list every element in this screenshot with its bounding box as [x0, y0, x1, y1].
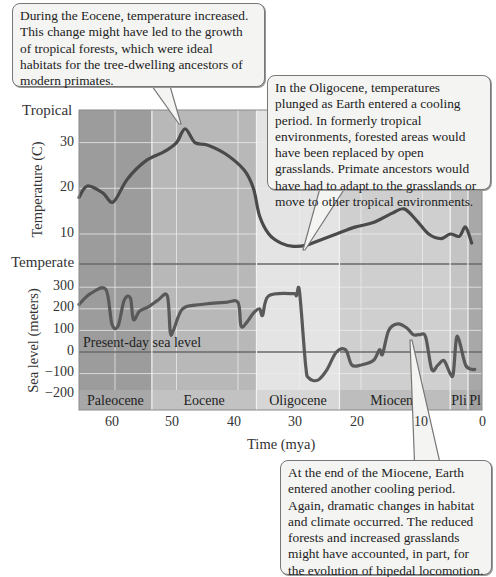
- temp-tick-30: 30: [60, 134, 74, 150]
- time-tick-50: 50: [165, 414, 179, 430]
- epoch-label-eocene: Eocene: [184, 393, 225, 408]
- sea-tick-minus-100: −100: [45, 364, 74, 380]
- epoch-label-pl: Pl: [469, 393, 481, 408]
- temp-tick-20: 20: [60, 179, 74, 195]
- time-tick-0: 0: [479, 414, 486, 430]
- tropical-label: Tropical: [22, 102, 72, 119]
- temp-tick-10: 10: [60, 225, 74, 241]
- temperature-axis-label: Temperature (C): [29, 135, 46, 245]
- temperate-label: Temperate: [11, 254, 74, 271]
- time-tick-30: 30: [288, 414, 302, 430]
- time-tick-40: 40: [227, 414, 241, 430]
- epoch-label-oligocene: Oligocene: [269, 393, 327, 408]
- eocene-callout: During the Eocene, temperature increased…: [12, 3, 265, 87]
- time-tick-10: 10: [414, 414, 428, 430]
- present-day-sea-level-label: Present-day sea level: [83, 335, 201, 351]
- sea-tick-minus-200: −200: [45, 385, 74, 401]
- miocene-callout: At the end of the Miocene, Earth entered…: [280, 460, 492, 575]
- time-tick-60: 60: [105, 414, 119, 430]
- epoch-label-paleocene: Paleocene: [87, 393, 144, 408]
- sea-tick-300: 300: [53, 278, 74, 294]
- time-axis-label: Time (mya): [247, 436, 315, 453]
- epoch-label-pli: Pli: [451, 393, 467, 408]
- sea-level-axis-label: Sea level (meters): [25, 276, 42, 406]
- time-tick-20: 20: [350, 414, 364, 430]
- sea-tick-200: 200: [53, 299, 74, 315]
- sea-tick-100: 100: [53, 321, 74, 337]
- sea-tick-0: 0: [67, 343, 74, 359]
- oligocene-callout: In the Oligocene, temperatures plunged a…: [267, 75, 491, 190]
